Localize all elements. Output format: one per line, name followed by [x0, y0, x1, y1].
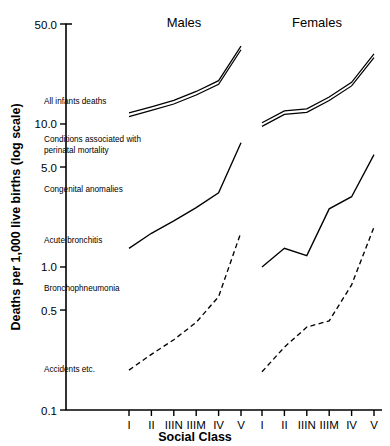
- series-annotation-all-infants: All infants deaths: [44, 97, 106, 106]
- series-annotation-accidents: Accidents etc.: [44, 365, 95, 374]
- x-axis-tick-label: IIIN: [298, 419, 316, 431]
- series-females-all-infants-deaths-lower: [262, 58, 374, 127]
- series-males-all-infants-deaths-lower: [129, 50, 241, 117]
- panel-title-females: Females: [292, 15, 342, 30]
- x-axis-tick-label: V: [370, 419, 378, 431]
- chart-axes: [66, 24, 382, 410]
- x-axis-tick-label: IIIM: [320, 419, 339, 431]
- y-axis-tick-label: 0.1: [41, 405, 57, 417]
- series-annotation-bronchopneumonia: Bronchophneumonia: [44, 284, 120, 293]
- series-females-accidents-etc: [262, 227, 374, 372]
- y-axis-tick-label: 5.0: [41, 162, 57, 174]
- series-females-all-infants-deaths-upper: [262, 54, 374, 123]
- x-axis-tick-label: V: [237, 419, 245, 431]
- series-males-all-infants-deaths-upper: [129, 46, 241, 113]
- x-axis-tick-label: I: [260, 419, 263, 431]
- series-annotation-perinatal2: perinatal mortality: [44, 146, 110, 155]
- y-axis-tick-label: 10.0: [35, 118, 57, 130]
- series-annotation-perinatal: Conditions associated with: [44, 135, 141, 144]
- x-axis-tick-label: IV: [346, 419, 357, 431]
- x-axis-tick-label: I: [127, 419, 130, 431]
- x-axis-title: Social Class: [158, 430, 232, 444]
- x-axis-tick-label: II: [148, 419, 154, 431]
- y-axis-tick-label: 0.5: [41, 305, 57, 317]
- panel-title-males: Males: [167, 15, 202, 30]
- infant-mortality-log-chart: 50.010.05.01.00.50.1IIIIIINIIIMIVVIIIIII…: [0, 0, 390, 446]
- series-males-accidents-etc: [129, 232, 241, 370]
- x-axis-tick-label: II: [281, 419, 287, 431]
- series-females-congenital-anomalies: [262, 155, 374, 267]
- chart-figure: 50.010.05.01.00.50.1IIIIIINIIIMIVVIIIIII…: [0, 0, 390, 446]
- series-annotation-congenital: Congenital anomalies: [44, 185, 123, 194]
- y-axis-title: Deaths per 1,000 live births (log scale): [9, 103, 23, 330]
- series-males-congenital-anomalies: [129, 143, 241, 249]
- y-axis-tick-label: 50.0: [35, 19, 57, 31]
- y-axis-tick-label: 1.0: [41, 261, 57, 273]
- series-annotation-bronchitis: Acute bronchitis: [44, 236, 102, 245]
